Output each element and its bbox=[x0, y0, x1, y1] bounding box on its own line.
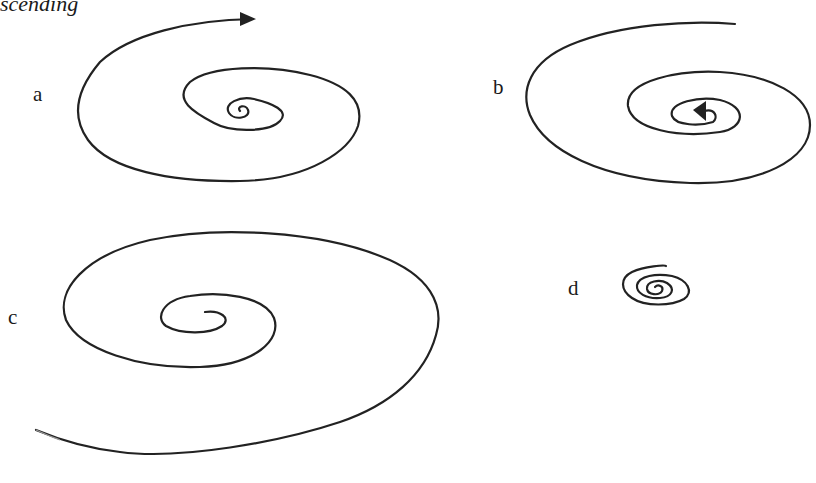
spiral-d bbox=[623, 266, 689, 305]
spiral-b bbox=[526, 23, 810, 183]
arrow-icon-outward bbox=[240, 12, 256, 26]
spiral-a bbox=[78, 12, 359, 181]
spiral-c bbox=[36, 232, 438, 454]
spiral-diagram bbox=[0, 0, 816, 483]
arrow-icon-inward bbox=[693, 101, 706, 121]
